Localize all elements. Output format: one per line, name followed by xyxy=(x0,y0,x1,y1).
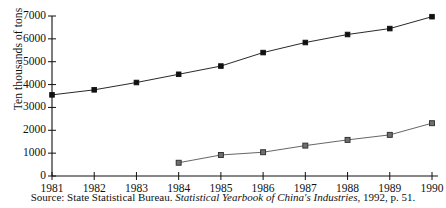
lower-series-point xyxy=(303,143,308,148)
source-title: Statistical Yearbook of China's Industri… xyxy=(175,191,357,203)
lower-series-point xyxy=(261,150,266,155)
upper-series-point xyxy=(219,64,224,69)
lower-series-markers xyxy=(176,121,434,166)
y-axis-tick-label: 6000 xyxy=(12,33,46,45)
y-axis-tick-label: 2000 xyxy=(12,124,46,136)
upper-series-line xyxy=(52,17,432,95)
upper-series-markers xyxy=(50,14,435,97)
upper-series-point xyxy=(92,88,97,93)
upper-series-point xyxy=(430,14,435,19)
upper-series-point xyxy=(261,50,266,55)
source-note: Source: State Statistical Bureau. Statis… xyxy=(0,191,446,204)
upper-series-point xyxy=(50,93,55,98)
upper-series-point xyxy=(345,32,350,37)
y-axis-tick-label: 3000 xyxy=(12,101,46,113)
lower-series-point xyxy=(430,121,435,126)
source-prefix: Source: State Statistical Bureau. xyxy=(31,191,176,203)
source-suffix: , 1992, p. 51. xyxy=(358,191,416,203)
lower-series-point xyxy=(387,132,392,137)
lower-series-point xyxy=(345,137,350,142)
y-axis-tick-label: 1000 xyxy=(12,147,46,159)
y-axis-tick-label: 0 xyxy=(12,170,46,182)
chart-axes xyxy=(48,16,438,180)
chart-figure: Ten thousands of tons 010002000300040005… xyxy=(0,0,446,208)
upper-series-point xyxy=(134,80,139,85)
upper-series-point xyxy=(303,40,308,45)
line-chart-plot xyxy=(0,0,446,208)
upper-series-point xyxy=(176,72,181,77)
y-axis-tick-label: 5000 xyxy=(12,56,46,68)
lower-series-point xyxy=(218,152,223,157)
upper-series-point xyxy=(387,26,392,31)
upper-series-polyline xyxy=(52,17,432,95)
y-axis-tick-label: 7000 xyxy=(12,10,46,22)
lower-series-point xyxy=(176,160,181,165)
y-axis-tick-label: 4000 xyxy=(12,79,46,91)
